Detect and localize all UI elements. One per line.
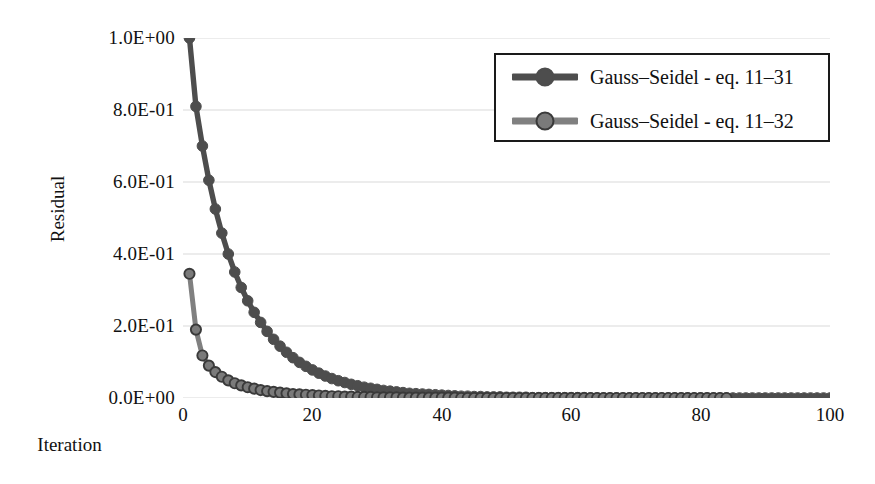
x-tick-label: 20 <box>303 404 322 426</box>
x-tick-label: 0 <box>178 404 188 426</box>
data-point <box>249 307 260 318</box>
data-point <box>197 350 207 360</box>
data-point <box>229 267 240 278</box>
data-point <box>191 101 202 112</box>
data-point <box>184 38 195 43</box>
legend-label-series-1: Gauss–Seidel - eq. 11–31 <box>590 66 794 89</box>
y-tick-label: 4.0E-01 <box>113 243 175 265</box>
x-axis-title: Iteration <box>0 434 875 456</box>
y-tick-label: 6.0E-01 <box>113 171 175 193</box>
legend-item[interactable]: Gauss–Seidel - eq. 11–31 <box>496 55 828 99</box>
x-tick-label: 60 <box>562 404 581 426</box>
data-point <box>721 393 731 398</box>
y-tick-label: 8.0E-01 <box>113 99 175 121</box>
data-point <box>197 141 208 152</box>
data-point <box>223 249 234 260</box>
y-tick-label: 2.0E-01 <box>113 315 175 337</box>
legend-marker-series-2 <box>536 112 555 131</box>
legend-item[interactable]: Gauss–Seidel - eq. 11–32 <box>496 99 828 143</box>
data-point <box>217 228 228 239</box>
data-point <box>184 269 194 279</box>
y-tick-label: 1.0E+00 <box>109 27 175 49</box>
data-point <box>204 175 215 186</box>
data-point <box>191 325 201 335</box>
chart-legend: Gauss–Seidel - eq. 11–31 Gauss–Seidel - … <box>494 53 830 142</box>
data-point <box>236 282 247 293</box>
x-axis-tick-labels: 0 20 40 60 80 100 <box>0 404 875 434</box>
legend-marker-series-1 <box>536 68 555 87</box>
data-point <box>242 296 253 307</box>
chart-figure: Residual 1.0E+00 8.0E-01 6.0E-01 4.0E-01… <box>0 0 875 484</box>
x-tick-label: 100 <box>816 404 845 426</box>
x-tick-label: 80 <box>692 404 711 426</box>
data-point <box>255 317 266 328</box>
x-axis-title-text: Iteration <box>37 434 101 456</box>
x-tick-label: 40 <box>433 404 452 426</box>
data-point <box>210 204 221 215</box>
legend-label-series-2: Gauss–Seidel - eq. 11–32 <box>590 110 794 133</box>
legend-swatch-series-1 <box>512 68 578 86</box>
legend-swatch-series-2 <box>512 112 578 130</box>
